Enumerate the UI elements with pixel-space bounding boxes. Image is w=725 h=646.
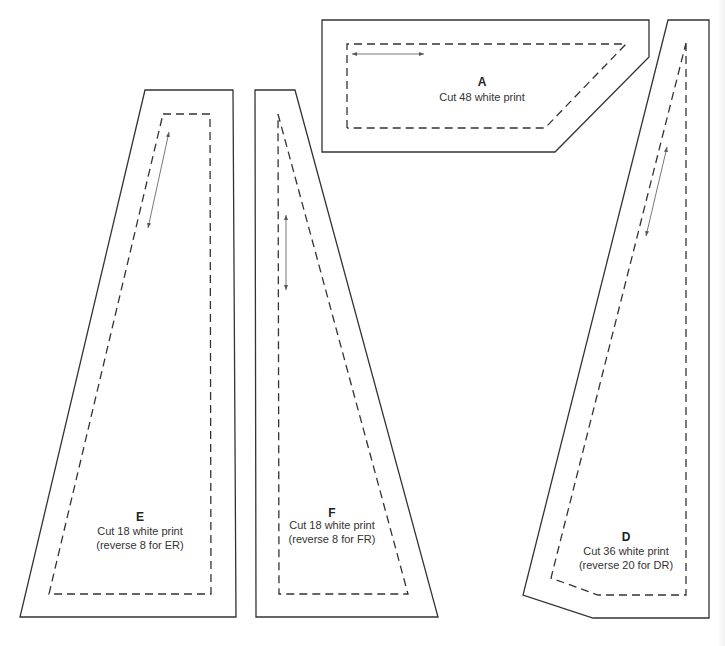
piece-e-cut-line (20, 90, 236, 617)
piece-e-seam-line (49, 114, 211, 594)
pattern-sheet: A Cut 48 white print E Cut 18 white prin… (0, 0, 725, 646)
piece-f-reverse-instruction: (reverse 8 for FR) (289, 533, 376, 545)
piece-d: D Cut 36 white print (reverse 20 for DR) (523, 20, 709, 618)
piece-e-grainline-arrow-icon (148, 132, 169, 228)
piece-e-letter: E (136, 510, 144, 524)
piece-d-seam-line (551, 43, 686, 595)
piece-d-cut-instruction: Cut 36 white print (583, 545, 669, 557)
piece-a-cut-instruction: Cut 48 white print (439, 91, 525, 103)
piece-e-cut-instruction: Cut 18 white print (97, 525, 183, 537)
piece-e-reverse-instruction: (reverse 8 for ER) (96, 539, 183, 551)
piece-f-letter: F (328, 506, 335, 520)
piece-f: F Cut 18 white print (reverse 8 for FR) (255, 90, 438, 617)
piece-a-letter: A (478, 75, 487, 89)
piece-a: A Cut 48 white print (322, 20, 649, 152)
piece-d-letter: D (622, 530, 631, 544)
piece-d-cut-line (523, 20, 709, 618)
piece-e: E Cut 18 white print (reverse 8 for ER) (20, 90, 236, 617)
piece-a-seam-line (347, 44, 626, 128)
piece-d-reverse-instruction: (reverse 20 for DR) (579, 559, 673, 571)
piece-f-cut-instruction: Cut 18 white print (289, 519, 375, 531)
